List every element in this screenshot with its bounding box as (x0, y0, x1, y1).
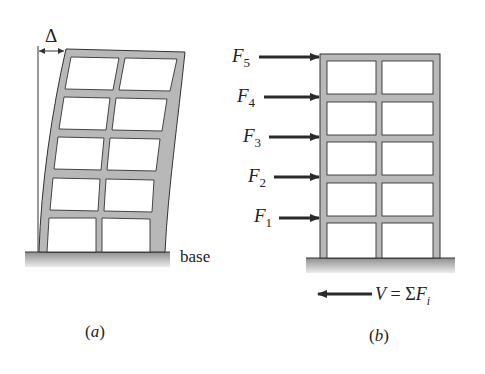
base-label: base (180, 247, 210, 266)
figure-canvas: Δ base (a) (0, 0, 485, 374)
delta-dimension (39, 48, 64, 54)
delta-label: Δ (45, 25, 57, 46)
force-arrows (259, 57, 319, 218)
force-labels: F5 F4 F3 F2 F1 (231, 45, 272, 230)
force-label-f2: F2 (247, 165, 266, 190)
caption-a: (a) (85, 322, 105, 341)
force-label-f4: F4 (236, 85, 256, 110)
force-label-f3: F3 (242, 125, 261, 150)
ground-b (306, 258, 455, 273)
panel-b-loaded-frame: F5 F4 F3 F2 F1 V = ΣFi (b) (231, 45, 455, 345)
force-label-f1: F1 (253, 205, 272, 230)
panel-a-deflected-frame: Δ base (a) (25, 25, 210, 341)
ground-a (25, 252, 170, 267)
base-shear-label: V = ΣFi (375, 284, 430, 308)
force-label-f5: F5 (231, 45, 250, 70)
caption-b: (b) (369, 326, 389, 345)
